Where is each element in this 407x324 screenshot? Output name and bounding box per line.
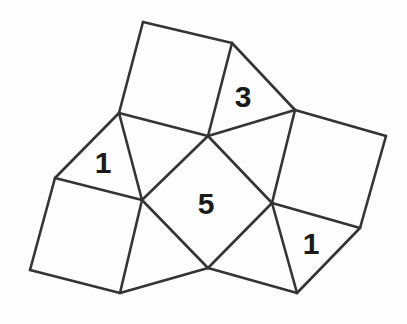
tiling-diagram: 3511	[0, 0, 407, 324]
label-three: 3	[235, 80, 252, 113]
label-right-one: 1	[303, 227, 320, 260]
label-five: 5	[198, 187, 215, 220]
label-left-one: 1	[95, 146, 112, 179]
polygon-faces-layer	[30, 22, 386, 293]
geometric-figure-canvas: 3511	[0, 0, 407, 324]
